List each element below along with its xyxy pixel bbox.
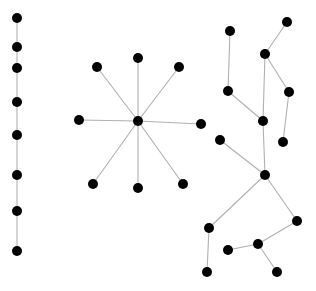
tree-graph-edge bbox=[258, 221, 297, 244]
tree-graph-node bbox=[272, 267, 282, 277]
tree-graph-edge bbox=[228, 31, 230, 91]
star-graph-edge bbox=[138, 67, 179, 121]
star-graph-node bbox=[88, 179, 98, 189]
star-graph-node bbox=[178, 179, 188, 189]
tree-graph-edge bbox=[209, 175, 265, 228]
tree-graph-node bbox=[258, 116, 268, 126]
graph-diagram bbox=[0, 0, 316, 291]
path-graph-node bbox=[12, 63, 22, 73]
tree-graph-edge bbox=[258, 244, 277, 272]
path-graph-node bbox=[12, 42, 22, 52]
tree-graph-node bbox=[284, 87, 294, 97]
star-graph-edge bbox=[79, 120, 138, 121]
path-graph-node bbox=[12, 13, 22, 23]
path-graph-node bbox=[12, 97, 22, 107]
star-graph-edge bbox=[93, 121, 138, 184]
path-graph-node bbox=[12, 130, 22, 140]
star-graph-node bbox=[133, 53, 143, 63]
tree-graph-edge bbox=[207, 228, 209, 272]
tree-graph-node bbox=[292, 216, 302, 226]
tree-graph-node bbox=[260, 170, 270, 180]
tree-graph-edge bbox=[263, 121, 265, 175]
star-graph-node bbox=[174, 62, 184, 72]
tree-graph-edge bbox=[265, 22, 287, 54]
tree-graph-node bbox=[260, 49, 270, 59]
tree-graph-edge bbox=[265, 54, 289, 92]
tree-graph-node bbox=[215, 135, 225, 145]
tree-graph-edge bbox=[220, 140, 265, 175]
graph-edges bbox=[17, 18, 297, 272]
star-graph-edge bbox=[138, 121, 201, 124]
star-graph-node bbox=[196, 119, 206, 129]
star-graph-edge bbox=[97, 67, 138, 121]
star-graph-edge bbox=[138, 121, 183, 184]
tree-graph-node bbox=[223, 86, 233, 96]
star-graph-node bbox=[92, 62, 102, 72]
star-graph-node bbox=[133, 116, 143, 126]
star-graph-node bbox=[133, 183, 143, 193]
tree-graph-node bbox=[204, 223, 214, 233]
tree-graph-edge bbox=[263, 54, 265, 121]
graph-nodes bbox=[12, 13, 302, 277]
tree-graph-node bbox=[225, 26, 235, 36]
tree-graph-node bbox=[202, 267, 212, 277]
tree-graph-node bbox=[278, 137, 288, 147]
tree-graph-edge bbox=[228, 91, 263, 121]
path-graph-node bbox=[12, 206, 22, 216]
path-graph-node bbox=[12, 246, 22, 256]
tree-graph-edge bbox=[283, 92, 289, 142]
tree-graph-node bbox=[223, 245, 233, 255]
path-graph-node bbox=[12, 170, 22, 180]
tree-graph-node bbox=[253, 239, 263, 249]
tree-graph-edge bbox=[265, 175, 297, 221]
tree-graph-node bbox=[282, 17, 292, 27]
star-graph-node bbox=[74, 115, 84, 125]
